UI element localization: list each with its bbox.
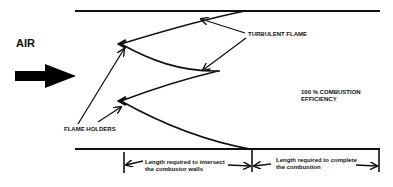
efficiency-line-2: EFFICIENCY [301, 96, 361, 103]
turbulent-flame-label: TURBULENT FLAME [248, 31, 307, 38]
flame-holders-leader-lower [98, 107, 121, 122]
dim-intersect-label: Length required to intersect the combust… [145, 159, 225, 173]
lower-flame-top-edge [121, 71, 218, 101]
turbulent-flame-leader-lower [203, 38, 246, 70]
combustor-diagram: AIR TURBULENT FLAME 100 % COMBUSTION EFF… [0, 0, 393, 187]
flame-holders-label: FLAME HOLDERS [64, 126, 116, 133]
dim2-arrow-right [356, 165, 377, 166]
dim-intersect-line-1: Length required to intersect [145, 159, 225, 166]
upper-flame-bottom-edge [121, 44, 220, 71]
dim2-arrow-left [254, 164, 271, 166]
air-label: AIR [16, 37, 35, 50]
combustion-efficiency-label: 100 % COMBUSTION EFFICIENCY [301, 89, 361, 103]
dim1-arrow-right [228, 165, 250, 166]
dim-complete-line-2: the combustion [276, 164, 357, 171]
flame-holders-leader-upper [78, 49, 124, 124]
dim-complete-label: Length required to complete the combusti… [276, 157, 357, 171]
dim-complete-line-1: Length required to complete [276, 157, 357, 164]
dim-intersect-line-2: the combustor walls [145, 166, 225, 173]
efficiency-line-1: 100 % COMBUSTION [301, 89, 361, 96]
lower-flame-bottom-edge [121, 101, 250, 149]
turbulent-flame-leader-upper [201, 19, 245, 33]
air-flow-arrow-icon [15, 64, 76, 88]
dim1-arrow-left [126, 161, 143, 165]
